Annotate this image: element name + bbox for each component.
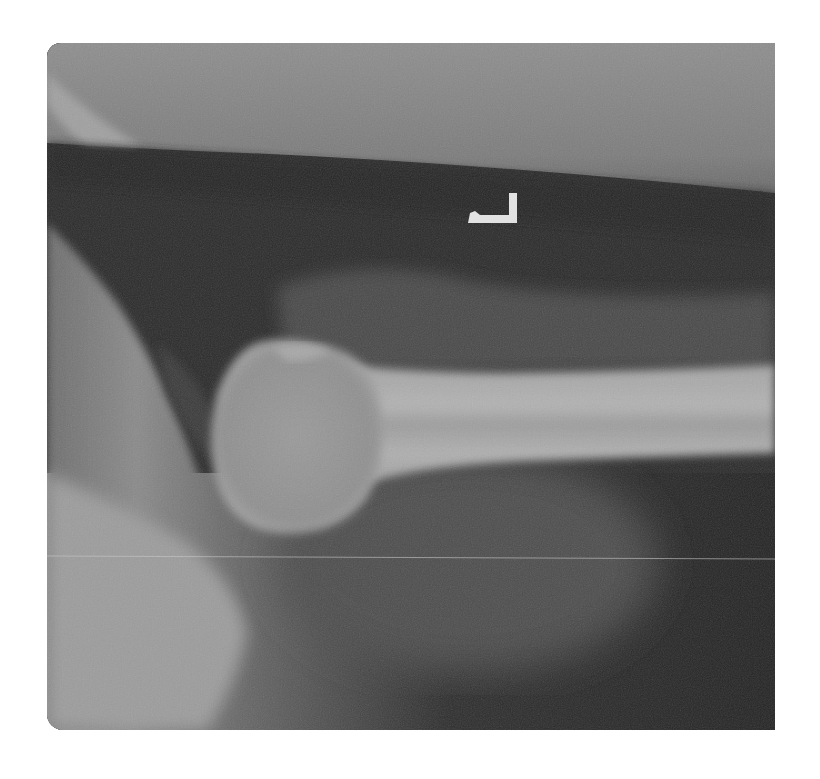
film-grain	[47, 43, 775, 730]
xray-frame	[47, 43, 775, 730]
xray-radiograph	[47, 43, 775, 730]
